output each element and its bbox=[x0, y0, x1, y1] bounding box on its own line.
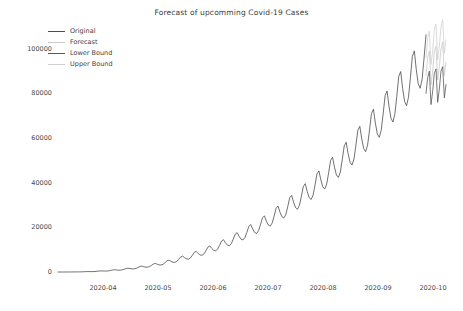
x-axis-tick-label: 2020-09 bbox=[364, 284, 391, 292]
legend-label: Forecast bbox=[70, 37, 98, 48]
chart-figure: Forecast of upcomming Covid-19 Cases 020… bbox=[0, 0, 463, 311]
legend-item: Original bbox=[48, 26, 158, 37]
legend-item: Lower Bound bbox=[48, 48, 158, 59]
legend-label: Lower Bound bbox=[70, 48, 112, 59]
y-axis-tick-label: 60000 bbox=[6, 134, 52, 142]
legend-item: Forecast bbox=[48, 37, 158, 48]
legend-swatch-icon bbox=[48, 31, 65, 32]
x-axis-tick-label: 2020-05 bbox=[144, 284, 171, 292]
x-axis-tick-label: 2020-06 bbox=[199, 284, 226, 292]
x-axis-tick-label: 2020-08 bbox=[309, 284, 336, 292]
x-axis-tick-labels: 2020-042020-052020-062020-072020-082020-… bbox=[58, 284, 448, 298]
y-axis-tick-label: 80000 bbox=[6, 89, 52, 97]
y-axis-tick-label: 40000 bbox=[6, 179, 52, 187]
x-axis-tick-label: 2020-04 bbox=[89, 284, 116, 292]
y-axis-tick-label: 20000 bbox=[6, 223, 52, 231]
x-axis-tick-label: 2020-10 bbox=[419, 284, 446, 292]
y-axis-tick-label: 0 bbox=[6, 268, 52, 276]
chart-title: Forecast of upcomming Covid-19 Cases bbox=[0, 8, 463, 17]
legend-label: Upper Bound bbox=[70, 59, 113, 70]
legend-item: Upper Bound bbox=[48, 59, 158, 70]
x-axis-tick-label: 2020-07 bbox=[254, 284, 281, 292]
lower-bound-line bbox=[426, 67, 446, 105]
legend-swatch-icon bbox=[48, 64, 65, 65]
original-line bbox=[58, 35, 426, 272]
legend-swatch-icon bbox=[48, 53, 65, 54]
y-axis-tick-label: 100000 bbox=[6, 45, 52, 53]
y-axis-tick-labels: 020000400006000080000100000 bbox=[4, 22, 52, 272]
chart-legend: OriginalForecastLower BoundUpper Bound bbox=[48, 26, 158, 70]
legend-swatch-icon bbox=[48, 42, 65, 43]
legend-label: Original bbox=[70, 26, 95, 37]
